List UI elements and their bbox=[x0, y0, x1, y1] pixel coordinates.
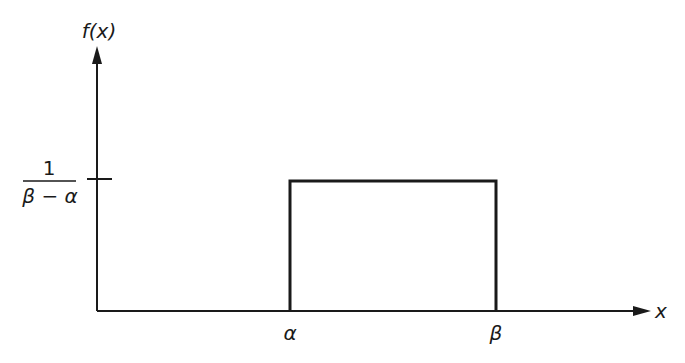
uniform-pdf-diagram: f(x) x 1 β − α α β bbox=[0, 0, 685, 363]
height-label-denominator: β − α bbox=[21, 184, 77, 208]
height-label-numerator: 1 bbox=[43, 156, 56, 180]
y-axis-label: f(x) bbox=[82, 19, 116, 43]
x-axis-label: x bbox=[654, 299, 667, 323]
density-rectangle bbox=[290, 181, 496, 311]
x-axis-arrowhead-icon bbox=[633, 306, 651, 316]
height-label: 1 β − α bbox=[21, 156, 77, 208]
x-tick-alpha: α bbox=[283, 321, 296, 345]
x-axis bbox=[97, 306, 651, 316]
x-tick-beta: β bbox=[489, 321, 503, 345]
y-axis-arrowhead-icon bbox=[92, 46, 102, 64]
